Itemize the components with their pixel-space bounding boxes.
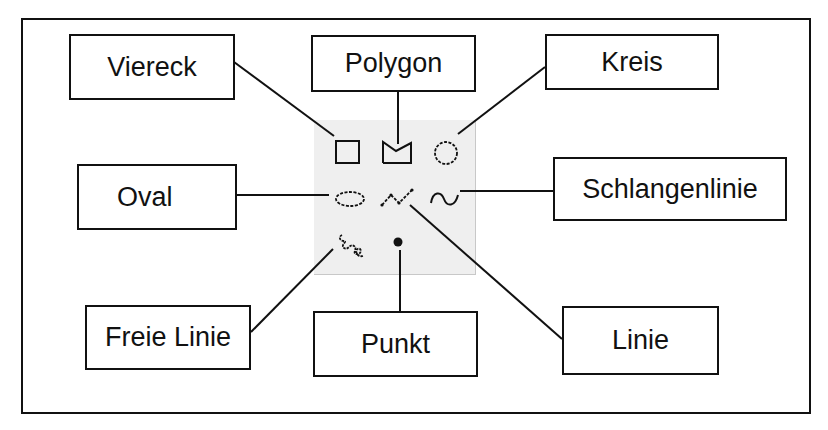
label-linie-text: Linie: [612, 327, 669, 354]
label-kreis-text: Kreis: [601, 49, 663, 76]
label-viereck-text: Viereck: [107, 54, 197, 81]
oval-icon[interactable]: [333, 188, 367, 210]
label-freie-linie: Freie Linie: [85, 305, 251, 370]
label-oval-text: Oval: [117, 184, 173, 211]
circle-icon[interactable]: [431, 138, 461, 168]
square-icon[interactable]: [334, 139, 362, 167]
label-polygon-text: Polygon: [345, 50, 443, 77]
label-polygon: Polygon: [311, 35, 476, 92]
label-punkt-text: Punkt: [361, 331, 430, 358]
label-linie: Linie: [562, 306, 719, 375]
polyline-icon[interactable]: [379, 187, 415, 209]
freehand-icon[interactable]: [336, 231, 366, 261]
label-schlangenlinie: Schlangenlinie: [553, 157, 787, 221]
wave-icon[interactable]: [428, 187, 462, 211]
label-viereck: Viereck: [69, 34, 235, 100]
label-freie-linie-text: Freie Linie: [105, 324, 231, 351]
polygon-icon[interactable]: [380, 139, 416, 167]
label-oval: Oval: [77, 164, 237, 230]
label-kreis: Kreis: [545, 34, 719, 90]
point-icon[interactable]: [391, 235, 405, 249]
label-schlangenlinie-text: Schlangenlinie: [582, 176, 758, 203]
label-punkt: Punkt: [313, 311, 478, 377]
